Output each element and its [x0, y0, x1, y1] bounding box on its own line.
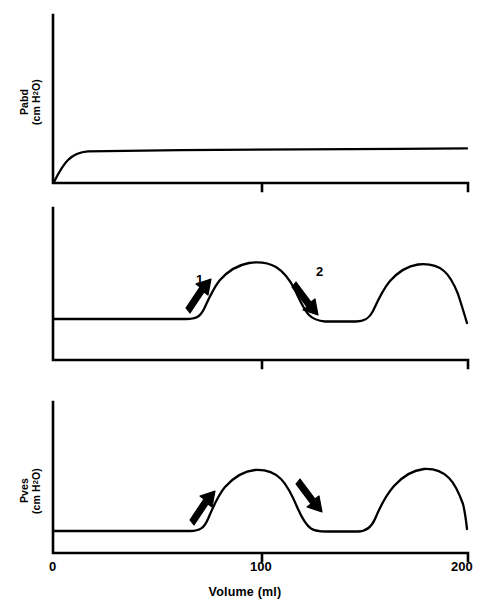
pdet-trace — [54, 469, 467, 532]
pabd-label-line1: Pabd — [18, 89, 30, 115]
x-tick-label-100: 100 — [250, 560, 272, 573]
urodynamics-figure: Pabd (cm H2O) Pves (cm H2O) 1 2 — [0, 0, 490, 608]
pves-axis — [53, 208, 468, 368]
pdet-plot-area — [0, 385, 490, 608]
pdet-annotation-arrow-2 — [296, 479, 322, 512]
pdet-axis — [53, 402, 468, 561]
pves-plot-area — [0, 195, 490, 385]
panel-pves: Pves (cm H2O) 1 2 — [0, 195, 490, 385]
pves-trace — [54, 262, 467, 323]
pabd-trace — [54, 148, 467, 182]
pves-arrow-label-1: 1 — [196, 273, 203, 286]
pves-arrow-label-2: 2 — [316, 265, 323, 278]
pabd-plot-area — [0, 0, 490, 195]
pabd-axis — [53, 15, 468, 191]
x-tick-label-200: 200 — [451, 560, 473, 573]
x-tick-label-0: 0 — [49, 560, 56, 573]
pdet-annotation-arrow-1 — [190, 491, 215, 525]
panel-pabd: Pabd (cm H2O) — [0, 0, 490, 195]
pabd-label-line2: (cm H2O) — [30, 79, 42, 125]
x-axis-title: Volume (ml) — [0, 585, 490, 599]
panel-pdet: Pdet (cm H2O) 1 2 — [0, 385, 490, 608]
pves-annotation-arrow-2 — [292, 282, 318, 315]
pabd-axis-label: Pabd (cm H2O) — [18, 62, 43, 142]
